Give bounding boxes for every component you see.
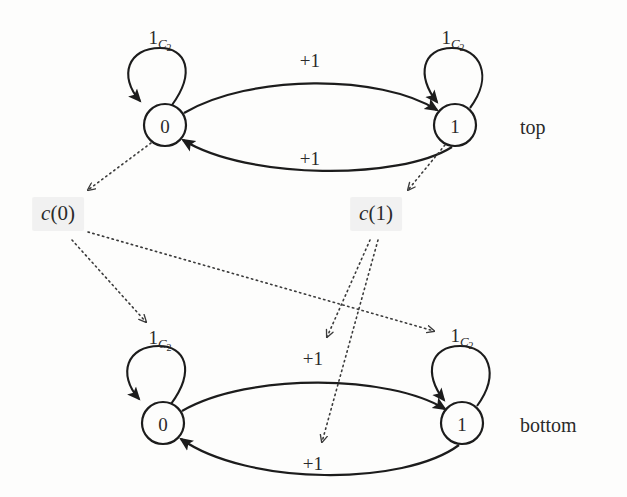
- mapping-arrow-c0-to-bot0-loop-label: [72, 240, 146, 322]
- mapping-arrow-top1-to-c1: [408, 145, 445, 190]
- mapping-arrow-top0-to-c0: [88, 143, 151, 190]
- self-loop-top-1: [425, 48, 483, 108]
- caption-bottom: bottom: [520, 415, 577, 435]
- mapping-arrow-c1-to-bot-lower-plus1: [322, 240, 378, 442]
- edge-label-top-0-to-1: +1: [300, 51, 321, 70]
- self-loop-top-0: [128, 48, 185, 105]
- self-loop-label-top-1: 1C2: [441, 28, 464, 53]
- self-loop-label-bot-1: 1C2: [450, 326, 473, 351]
- mapping-arrow-c0-to-bot1-loop-label: [88, 232, 434, 331]
- edge-bot-0-to-1: [182, 383, 445, 411]
- node-label-bot-1: 1: [457, 415, 467, 434]
- mapping-arrows: [72, 143, 445, 442]
- edge-top-0-to-1: [184, 83, 437, 113]
- node-label-top-1: 1: [450, 117, 460, 136]
- mapping-arrow-c1-to-bot-upper-plus1: [327, 240, 370, 337]
- mapping-label-c-of-1: c(1): [350, 197, 402, 231]
- edge-label-bot-1-to-0: +1: [303, 454, 324, 473]
- self-loop-bot-1: [432, 346, 490, 406]
- figure-canvas: 1C2 1C2 +1 +1 0 1 top c(0) c(1) 1C2 1C2 …: [0, 0, 627, 497]
- node-label-bot-0: 0: [158, 415, 168, 434]
- self-loop-bot-0: [127, 346, 185, 404]
- caption-top: top: [520, 117, 546, 137]
- node-label-top-0: 0: [160, 117, 170, 136]
- edge-label-top-1-to-0: +1: [300, 149, 321, 168]
- mapping-label-c-of-0: c(0): [32, 197, 84, 231]
- edge-label-bot-0-to-1: +1: [303, 349, 324, 368]
- self-loop-label-top-0: 1C2: [148, 28, 171, 53]
- self-loop-label-bot-0: 1C2: [148, 328, 171, 353]
